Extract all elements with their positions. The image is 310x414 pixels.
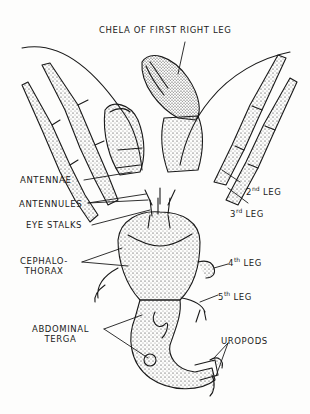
label-cephalothorax: CEPHALO- THORAX [20, 256, 68, 276]
label-4th-leg: 4th LEG [228, 255, 262, 268]
label-uropods: UROPODS [221, 336, 268, 346]
label-chela: CHELA OF FIRST RIGHT LEG [99, 25, 231, 35]
label-3rd-leg: 3rd LEG [230, 206, 264, 219]
label-eye-stalks: EYE STALKS [26, 220, 82, 230]
label-cephalothorax-line2: THORAX [20, 266, 68, 276]
label-cephalothorax-line1: CEPHALO- [20, 256, 68, 266]
leg3-word: LEG [246, 209, 265, 219]
label-2nd-leg: 2nd LEG [246, 184, 281, 197]
right-fifth-leg [182, 298, 206, 322]
right-chela [142, 56, 199, 120]
leader-4th-leg [214, 264, 228, 268]
left-fourth-leg [95, 268, 118, 302]
leg4-word: LEG [243, 258, 262, 268]
label-abdominal-line2: TERGA [32, 334, 89, 344]
leg2-word: LEG [263, 187, 282, 197]
label-antennae: ANTENNAE [20, 175, 71, 185]
leader-antennules [88, 194, 148, 203]
label-abdominal-line1: ABDOMINAL [32, 324, 89, 334]
leader-5th-leg [200, 295, 218, 302]
hermit-crab-diagram: CHELA OF FIRST RIGHT LEG ANTENNAE ANTENN… [0, 0, 310, 414]
right-fourth-leg [198, 261, 215, 278]
right-carpus [162, 116, 203, 172]
leg5-word: LEG [233, 292, 252, 302]
label-antennules: ANTENNULES [19, 199, 82, 209]
label-abdominal-terga: ABDOMINAL TERGA [32, 324, 89, 344]
leg5-suffix: th [224, 290, 230, 297]
abdomen [131, 300, 215, 389]
label-5th-leg: 5th LEG [218, 289, 252, 302]
left-chela [104, 104, 144, 175]
leg2-suffix: nd [252, 185, 260, 192]
leg3-suffix: rd [236, 207, 242, 214]
leg4-suffix: th [234, 256, 240, 263]
cephalothorax [118, 212, 200, 300]
